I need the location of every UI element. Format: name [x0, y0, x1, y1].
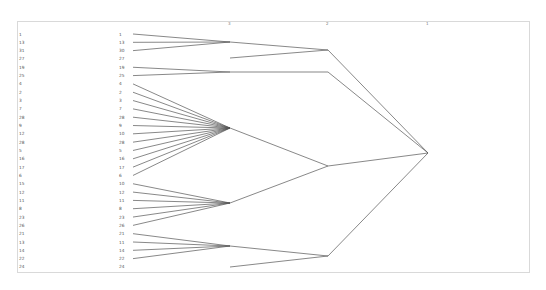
tree-edge	[328, 153, 428, 166]
tree-edge	[230, 42, 328, 50]
tree-edge	[133, 72, 230, 76]
tree-edge	[230, 256, 328, 267]
tree-edge	[133, 203, 230, 217]
tree-edge	[133, 126, 230, 128]
tree-edge	[230, 246, 328, 256]
tree-edge	[133, 203, 230, 225]
tree-edge	[328, 72, 428, 153]
tree-edge	[133, 128, 230, 150]
tree-edge	[230, 166, 328, 203]
tree-edge	[133, 101, 230, 128]
tree-edge	[133, 42, 230, 51]
tree-edge	[133, 67, 230, 72]
dendrogram	[0, 0, 546, 290]
tree-edge	[133, 128, 230, 167]
tree-edge	[230, 50, 328, 58]
tree-edge	[328, 50, 428, 153]
tree-edge	[230, 128, 328, 166]
tree-edge	[133, 84, 230, 128]
tree-edge	[133, 34, 230, 42]
tree-edge	[133, 203, 230, 209]
tree-edge	[133, 109, 230, 128]
tree-edge	[328, 153, 428, 256]
